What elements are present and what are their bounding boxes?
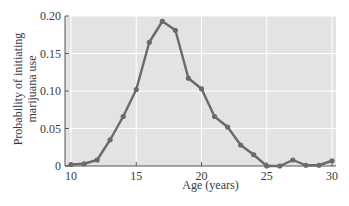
y-tick-label: 0.15: [40, 47, 61, 61]
data-point: [238, 142, 243, 147]
data-point: [95, 157, 100, 162]
y-tick-label: 0.05: [40, 122, 61, 136]
data-point: [68, 162, 73, 167]
line-chart: 00.050.100.150.20 1015202530 Age (years)…: [0, 0, 349, 206]
data-point: [303, 163, 308, 168]
x-tick-label: 30: [326, 169, 338, 183]
y-axis-title-line: marijuana use: [25, 56, 39, 123]
y-tick-label: 0.10: [40, 84, 61, 98]
data-point: [81, 161, 86, 166]
data-point: [251, 152, 256, 157]
data-point: [186, 76, 191, 81]
y-tick-label: 0.20: [40, 9, 61, 23]
y-axis-title-line: Probability of initiating: [11, 33, 25, 146]
data-point: [277, 163, 282, 168]
x-tick-label: 15: [130, 169, 142, 183]
data-point: [173, 28, 178, 33]
data-point: [212, 114, 217, 119]
y-axis-title: Probability of initiatingmarijuana use: [11, 33, 39, 146]
data-point: [160, 19, 165, 24]
y-tick-label: 0: [55, 159, 61, 173]
data-point: [329, 158, 334, 163]
x-tick-label: 10: [65, 169, 77, 183]
data-point: [147, 40, 152, 45]
data-point: [134, 87, 139, 92]
data-point: [225, 124, 230, 129]
data-point: [290, 157, 295, 162]
data-point: [316, 163, 321, 168]
data-point: [264, 163, 269, 168]
data-point: [199, 86, 204, 91]
data-point: [121, 114, 126, 119]
x-tick-label: 25: [261, 169, 273, 183]
x-axis-title: Age (years): [182, 178, 238, 192]
data-point: [108, 137, 113, 142]
